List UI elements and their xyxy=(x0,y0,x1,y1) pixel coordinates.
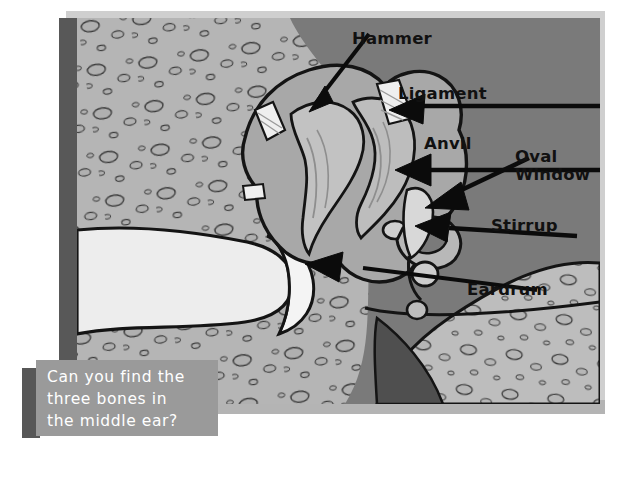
label-oval-window: Oval Window xyxy=(515,148,590,185)
frame-plate-dark-left xyxy=(59,18,77,414)
label-eardrum: Eardrum xyxy=(467,281,548,299)
ear-anatomy-illustration xyxy=(77,18,600,404)
label-stirrup: Stirrup xyxy=(491,217,558,235)
label-hammer: Hammer xyxy=(352,30,432,48)
figure-stage: Hammer Ligament Anvil Oval Window Stirru… xyxy=(0,0,621,478)
label-anvil: Anvil xyxy=(424,135,472,153)
caption-text: Can you find the three bones in the midd… xyxy=(47,366,222,432)
label-ligament: Ligament xyxy=(398,85,487,103)
